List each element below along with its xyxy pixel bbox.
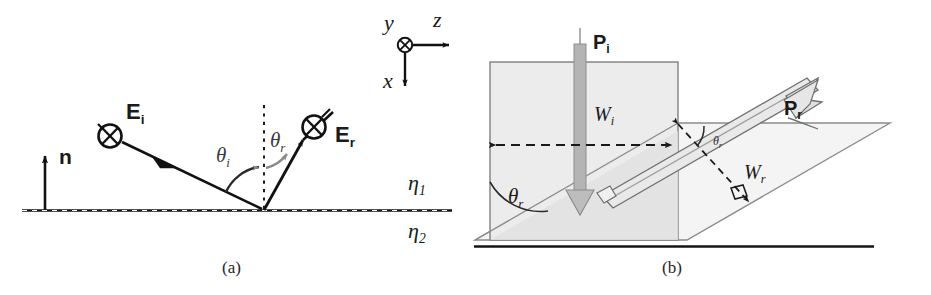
beam-angle-label: θr bbox=[713, 135, 722, 147]
lower-medium-label: η2 bbox=[408, 220, 426, 242]
panel-b-beam-footprint: Pi Wi Pr Wr θr θr (b) bbox=[466, 0, 931, 295]
reflected-polarization-circle-x-icon bbox=[303, 109, 331, 139]
coordinate-axes bbox=[398, 38, 449, 86]
z-axis-label: z bbox=[433, 9, 442, 31]
reflected-field-label: Er bbox=[335, 124, 355, 146]
upper-medium-label: η1 bbox=[408, 172, 426, 194]
reflected-width-label: Wr bbox=[744, 162, 766, 182]
incident-angle-label: θi bbox=[216, 145, 230, 166]
incident-polarization-circle-x-icon bbox=[98, 124, 122, 148]
reflected-angle-label: θr bbox=[270, 130, 285, 151]
panel-b-caption: (b) bbox=[662, 258, 682, 278]
incident-field-label: Ei bbox=[126, 101, 144, 123]
incident-angle-arc bbox=[226, 167, 259, 192]
incident-power-label: Pi bbox=[593, 32, 610, 52]
incident-width-label: Wi bbox=[594, 104, 614, 124]
normal-vector-label: n bbox=[59, 146, 72, 167]
panel-a-reflection-geometry: n Ei Er θi θr η1 η2 y z x (a) bbox=[0, 0, 466, 295]
ground-angle-label: θr bbox=[508, 186, 523, 207]
figure-container: n Ei Er θi θr η1 η2 y z x (a) bbox=[0, 0, 931, 295]
y-axis-label: y bbox=[384, 12, 394, 34]
panel-b-drawing bbox=[466, 0, 931, 295]
reflected-power-label: Pr bbox=[784, 98, 802, 118]
panel-a-caption: (a) bbox=[222, 258, 241, 278]
x-axis-label: x bbox=[383, 70, 393, 92]
reflected-angle-arc bbox=[266, 154, 287, 168]
